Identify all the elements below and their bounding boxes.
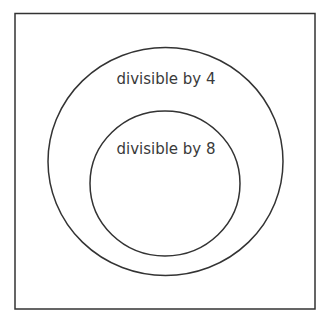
- outer-set-label: divisible by 4: [116, 70, 215, 88]
- universe-rectangle: [15, 14, 315, 310]
- venn-diagram: divisible by 4 divisible by 8: [0, 0, 327, 318]
- inner-circle-divisible-by-8: [90, 111, 240, 256]
- inner-set-label: divisible by 8: [116, 140, 215, 158]
